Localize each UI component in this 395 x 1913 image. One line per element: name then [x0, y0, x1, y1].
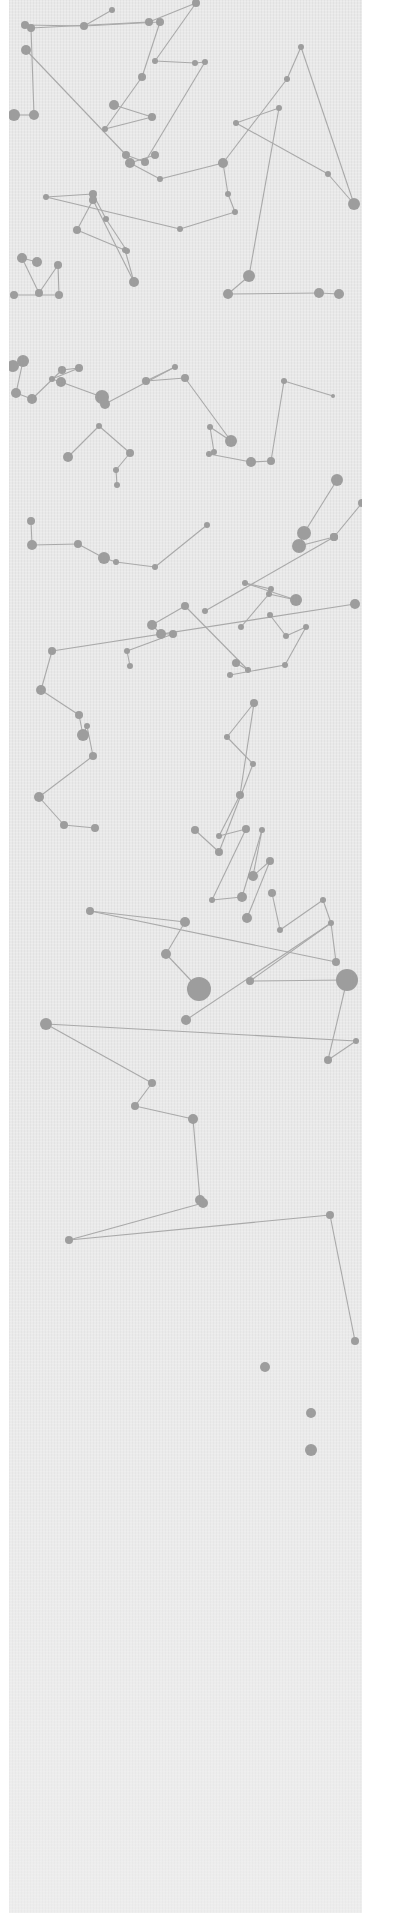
network-edge [99, 426, 130, 453]
network-node [268, 586, 274, 592]
network-edge [236, 123, 328, 174]
network-node [242, 825, 250, 833]
network-node [350, 599, 360, 609]
network-edge [185, 378, 231, 441]
network-node [34, 792, 44, 802]
network-node [60, 821, 68, 829]
network-edge [160, 163, 223, 179]
network-node [89, 752, 97, 760]
network-edge [68, 426, 99, 457]
network-node [126, 449, 134, 457]
network-node [122, 151, 130, 159]
network-edge [219, 829, 246, 836]
network-node [282, 662, 288, 668]
network-node [124, 648, 130, 654]
network-edge [271, 381, 284, 461]
network-node [129, 277, 139, 287]
network-pattern [9, 0, 362, 1913]
network-node [332, 958, 340, 966]
network-node [236, 791, 244, 799]
network-edge [284, 381, 333, 396]
network-node [98, 552, 110, 564]
network-edge [250, 980, 347, 981]
network-node [277, 927, 283, 933]
network-edge [69, 1215, 330, 1240]
network-node [245, 667, 251, 673]
network-node [276, 105, 282, 111]
network-edge [228, 293, 319, 294]
network-node [75, 364, 83, 372]
network-node [238, 624, 244, 630]
network-node [192, 60, 198, 66]
network-node [40, 1018, 52, 1030]
network-node [334, 289, 344, 299]
network-edge [145, 62, 205, 162]
network-edge [241, 594, 269, 627]
network-node [266, 857, 274, 865]
network-edge [304, 480, 337, 533]
network-edge [90, 911, 336, 962]
network-node [54, 261, 62, 269]
network-node [73, 226, 81, 234]
network-node [27, 517, 35, 525]
network-node [109, 100, 119, 110]
network-node [131, 1102, 139, 1110]
network-node [328, 920, 334, 926]
network-node [100, 399, 110, 409]
network-node [232, 209, 238, 215]
network-node [351, 1337, 359, 1345]
network-node [65, 1236, 73, 1244]
network-node [233, 120, 239, 126]
network-node [297, 526, 311, 540]
network-node [267, 457, 275, 465]
network-edge [127, 634, 173, 651]
network-node [209, 897, 215, 903]
network-node [122, 247, 128, 253]
network-edge [39, 265, 58, 293]
network-node [225, 435, 237, 447]
network-node [151, 151, 159, 159]
network-node [113, 467, 119, 473]
network-node [298, 44, 304, 50]
network-edge [219, 764, 253, 852]
network-node [242, 580, 248, 586]
network-node [353, 1038, 359, 1044]
network-node [89, 196, 97, 204]
network-edge [270, 615, 286, 636]
network-node [250, 761, 256, 767]
network-edge [58, 265, 59, 295]
network-node [142, 377, 150, 385]
network-node [74, 540, 82, 548]
network-node [21, 45, 31, 55]
network-node [35, 289, 43, 297]
network-node [147, 620, 157, 630]
network-edge [323, 900, 331, 923]
network-node [181, 1015, 191, 1025]
network-edge [330, 1215, 355, 1341]
network-edge [114, 105, 152, 117]
network-node [306, 1408, 316, 1418]
network-node [181, 602, 189, 610]
network-node [49, 376, 55, 382]
network-node [55, 291, 63, 299]
network-edge [212, 829, 246, 900]
network-node [250, 699, 258, 707]
network-node [80, 22, 88, 30]
network-node [109, 7, 115, 13]
network-node [27, 24, 35, 32]
network-node [148, 1079, 156, 1087]
network-node [96, 423, 102, 429]
network-node [191, 826, 199, 834]
network-node [320, 897, 326, 903]
network-node [283, 633, 289, 639]
network-node [336, 969, 358, 991]
network-edge [31, 28, 34, 115]
network-node [32, 257, 42, 267]
network-node [177, 226, 183, 232]
network-edge [223, 79, 287, 163]
network-edge [209, 454, 251, 462]
network-node [326, 1211, 334, 1219]
network-node [77, 729, 89, 741]
network-node [206, 451, 212, 457]
network-edge [152, 606, 185, 625]
